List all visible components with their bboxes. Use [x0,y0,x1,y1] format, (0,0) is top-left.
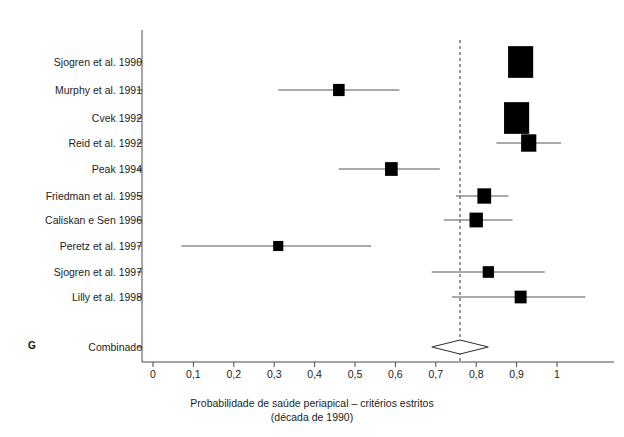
study-label: Cvek 1992 [92,112,142,124]
study-label: Reid et al. 1992 [68,137,142,149]
study-estimate-marker [333,84,345,96]
x-axis-tick-label: 0,4 [307,368,322,380]
study-estimate-marker [521,134,536,151]
study-label: Friedman et al. 1995 [46,190,142,202]
x-axis-title: Probabilidade de saúde periapical – crit… [0,396,624,424]
study-label: Caliskan e Sen 1996 [45,214,142,226]
study-estimate-marker [504,102,529,134]
study-label: Peak 1994 [92,163,142,175]
summary-label: Combinado [88,341,142,353]
x-axis-title-line-2: (década de 1990) [0,410,624,424]
study-estimate-marker [508,46,533,78]
study-estimate-marker [273,241,283,251]
x-axis-tick-label: 0,1 [186,368,201,380]
study-label-column: Sjogren et al. 1990Murphy et al. 1991Cve… [0,0,142,437]
x-axis-tick-label: 0,7 [428,368,443,380]
x-axis-tick-label: 0,5 [348,368,363,380]
summary-diamond [432,340,489,354]
forest-plot-figure: G Sjogren et al. 1990Murphy et al. 1991C… [0,0,624,437]
study-label: Peretz et al. 1997 [60,240,142,252]
x-axis-tick-label: 1 [554,368,560,380]
study-estimate-marker [385,162,398,176]
x-axis-tick-label: 0,3 [267,368,282,380]
x-axis-tick-label: 0 [150,368,156,380]
study-estimate-marker [470,213,483,228]
study-label: Sjogren et al. 1997 [54,266,142,278]
study-estimate-marker [483,266,494,278]
x-axis-tick-label: 0,2 [226,368,241,380]
x-axis-tick-label: 0,8 [469,368,484,380]
x-axis-tick-label: 0,6 [388,368,403,380]
x-axis-tick-label: 0,9 [509,368,524,380]
study-label: Murphy et al. 1991 [55,84,142,96]
axes-layer [142,30,614,367]
x-axis-title-line-1: Probabilidade de saúde periapical – crit… [190,397,433,409]
study-estimate-marker [515,291,527,304]
study-label: Lilly et al. 1998 [72,291,142,303]
study-label: Sjogren et al. 1990 [54,56,142,68]
study-estimate-marker [477,188,491,203]
study-rows-layer [137,46,585,303]
summary-diamond-layer [137,340,488,354]
